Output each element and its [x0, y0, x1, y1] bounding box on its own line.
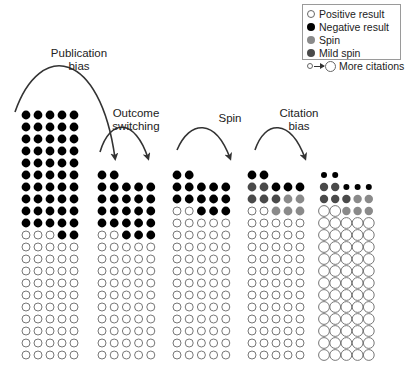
negative-result-dot	[98, 207, 107, 216]
positive-result-dot	[147, 243, 155, 251]
negative-result-dot	[209, 207, 218, 216]
negative-result-dot	[58, 159, 67, 168]
negative-result-dot	[58, 231, 67, 240]
mild-spin-result-dot	[331, 195, 339, 203]
positive-result-dot	[46, 267, 54, 275]
negative-result-dot	[110, 207, 119, 216]
positive-result-dot	[122, 339, 130, 347]
positive-result-dot	[330, 242, 341, 253]
negative-result-dot	[34, 195, 43, 204]
positive-result-dot	[34, 315, 42, 323]
negative-result-dot	[98, 219, 107, 228]
positive-result-dot	[70, 255, 78, 263]
positive-result-dot	[341, 218, 352, 229]
negative-result-dot	[70, 159, 79, 168]
positive-result-dot	[248, 339, 256, 347]
positive-result-dot	[330, 266, 341, 277]
positive-result-dot	[222, 279, 230, 287]
negative-result-dot	[221, 195, 230, 204]
positive-result-dot	[173, 339, 181, 347]
positive-result-dot	[197, 291, 205, 299]
negative-result-dot	[146, 207, 155, 216]
negative-result-dot	[134, 195, 143, 204]
positive-result-dot	[248, 351, 256, 359]
negative-result-dot	[46, 123, 55, 132]
positive-result-dot	[98, 315, 106, 323]
positive-result-dot	[319, 350, 330, 361]
positive-result-dot	[296, 315, 304, 323]
positive-result-dot	[296, 291, 304, 299]
positive-result-dot	[352, 314, 363, 325]
negative-result-dot	[46, 159, 55, 168]
positive-result-dot	[197, 231, 205, 239]
positive-result-dot	[210, 351, 218, 359]
positive-result-dot	[284, 279, 292, 287]
negative-result-dot	[122, 219, 131, 228]
positive-result-dot	[70, 351, 78, 359]
negative-result-dot	[34, 183, 43, 192]
positive-result-dot	[147, 339, 155, 347]
positive-result-dot	[272, 315, 280, 323]
positive-result-dot	[272, 243, 280, 251]
positive-result-dot	[272, 327, 280, 335]
positive-result-dot	[222, 267, 230, 275]
positive-result-dot	[248, 255, 256, 263]
positive-result-dot	[70, 303, 78, 311]
mild-spin-result-dot	[248, 183, 257, 192]
positive-result-dot	[98, 267, 106, 275]
mild-spin-result-dot	[260, 195, 269, 204]
positive-result-dot	[135, 303, 143, 311]
positive-result-dot	[363, 266, 374, 277]
negative-result-dot	[46, 219, 55, 228]
positive-result-dot	[248, 267, 256, 275]
positive-result-dot	[352, 350, 363, 361]
positive-result-dot	[272, 303, 280, 311]
negative-result-dot	[70, 219, 79, 228]
positive-result-dot	[122, 291, 130, 299]
positive-result-dot	[197, 267, 205, 275]
negative-result-dot	[58, 147, 67, 156]
positive-result-dot	[363, 278, 374, 289]
positive-result-dot	[70, 267, 78, 275]
positive-result-dot	[296, 303, 304, 311]
negative-result-dot	[260, 171, 269, 180]
negative-result-dot	[46, 111, 55, 120]
positive-result-dot	[22, 291, 30, 299]
positive-result-dot	[98, 291, 106, 299]
positive-result-dot	[173, 327, 181, 335]
positive-result-dot	[70, 339, 78, 347]
positive-result-dot	[352, 338, 363, 349]
negative-result-dot	[34, 171, 43, 180]
positive-result-dot	[284, 291, 292, 299]
positive-result-dot	[363, 338, 374, 349]
positive-result-dot	[260, 207, 268, 215]
positive-result-dot	[122, 243, 130, 251]
negative-result-dot	[58, 171, 67, 180]
positive-result-dot	[222, 351, 230, 359]
positive-result-dot	[197, 243, 205, 251]
positive-result-dot	[185, 207, 193, 215]
negative-result-dot	[34, 219, 43, 228]
positive-result-dot	[296, 219, 304, 227]
positive-result-dot	[70, 279, 78, 287]
positive-result-dot	[352, 242, 363, 253]
positive-result-dot	[319, 314, 330, 325]
positive-result-dot	[98, 327, 106, 335]
positive-result-dot	[341, 290, 352, 301]
legend-item-mild-spin: Mild spin	[307, 47, 400, 60]
positive-result-dot	[122, 315, 130, 323]
negative-result-dot	[34, 111, 43, 120]
positive-result-dot	[110, 279, 118, 287]
positive-result-dot	[98, 243, 106, 251]
negative-result-dot	[46, 147, 55, 156]
positive-result-dot	[260, 339, 268, 347]
positive-result-dot	[363, 350, 374, 361]
positive-result-dot	[46, 231, 54, 239]
negative-result-dot	[146, 183, 155, 192]
negative-result-dot	[209, 183, 218, 192]
negative-result-dot	[98, 183, 107, 192]
positive-result-dot	[352, 230, 363, 241]
positive-result-dot	[248, 315, 256, 323]
positive-result-dot	[330, 314, 341, 325]
positive-result-dot	[147, 267, 155, 275]
